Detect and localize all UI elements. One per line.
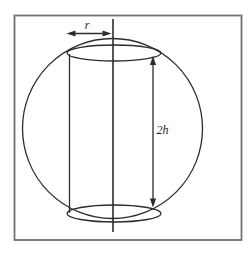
radius-arrow-left-head-icon xyxy=(67,30,76,36)
radius-dimension: r xyxy=(67,18,112,37)
height-dimension: 2h xyxy=(150,56,169,208)
radius-arrow-right-head-icon xyxy=(103,30,112,36)
radius-label: r xyxy=(85,18,90,32)
height-arrow-bottom-head-icon xyxy=(150,199,156,208)
figure-canvas: r 2h xyxy=(0,0,252,257)
height-label: 2h xyxy=(157,123,169,137)
cylinder-top-ellipse xyxy=(67,45,161,61)
figure-frame-border xyxy=(15,16,242,241)
geometry-figure: r 2h xyxy=(0,0,252,257)
